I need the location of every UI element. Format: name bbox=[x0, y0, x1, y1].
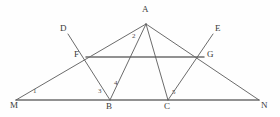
segment-line-A-G-N bbox=[146, 24, 259, 100]
segment-cevian-A-C bbox=[146, 24, 168, 100]
point-label-M: M bbox=[10, 101, 18, 110]
point-label-C: C bbox=[164, 102, 170, 111]
angle-label-3: 3 bbox=[98, 88, 102, 95]
point-label-F: F bbox=[74, 50, 79, 59]
segment-cevian-A-B bbox=[110, 24, 146, 100]
angle-label-2: 2 bbox=[132, 33, 136, 40]
point-label-N: N bbox=[261, 101, 268, 110]
point-label-E: E bbox=[215, 24, 221, 33]
point-label-B: B bbox=[106, 102, 112, 111]
point-label-G: G bbox=[207, 50, 214, 59]
angle-label-5: 5 bbox=[172, 89, 176, 96]
point-label-A: A bbox=[142, 5, 149, 14]
geometry-figure: ADEFGMBCN12345 bbox=[0, 0, 280, 117]
angle-label-1: 1 bbox=[33, 88, 37, 95]
angle-label-4: 4 bbox=[114, 80, 118, 87]
point-label-D: D bbox=[60, 24, 67, 33]
diagram-canvas bbox=[0, 0, 280, 117]
segment-line-D-F-B bbox=[68, 34, 110, 100]
